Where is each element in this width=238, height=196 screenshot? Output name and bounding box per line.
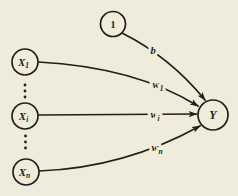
- edge-b-label-main: b: [150, 45, 155, 56]
- ellipsis-dot: [24, 84, 27, 87]
- edge-wn-label-sub: n: [158, 147, 162, 156]
- edge-b-label: b: [150, 45, 155, 56]
- scanned-figure-page: bw1wiwn1X1XiXnY: [0, 0, 238, 196]
- ellipsis-dot: [24, 135, 27, 138]
- ellipsis-dot: [24, 90, 27, 93]
- ellipsis-dot: [24, 147, 27, 150]
- node-x1-label-sub: 1: [25, 61, 29, 70]
- edge-w1-label-sub: 1: [160, 84, 164, 93]
- ellipsis-dot: [24, 141, 27, 144]
- edge-wi-arrow: [38, 114, 197, 115]
- network-diagram: bw1wiwn1X1XiXnY: [0, 0, 238, 196]
- node-bias-label: 1: [111, 19, 116, 30]
- node-xn-label-sub: n: [26, 171, 30, 180]
- node-bias-label-main: 1: [111, 19, 116, 30]
- ellipsis-dot: [24, 96, 27, 99]
